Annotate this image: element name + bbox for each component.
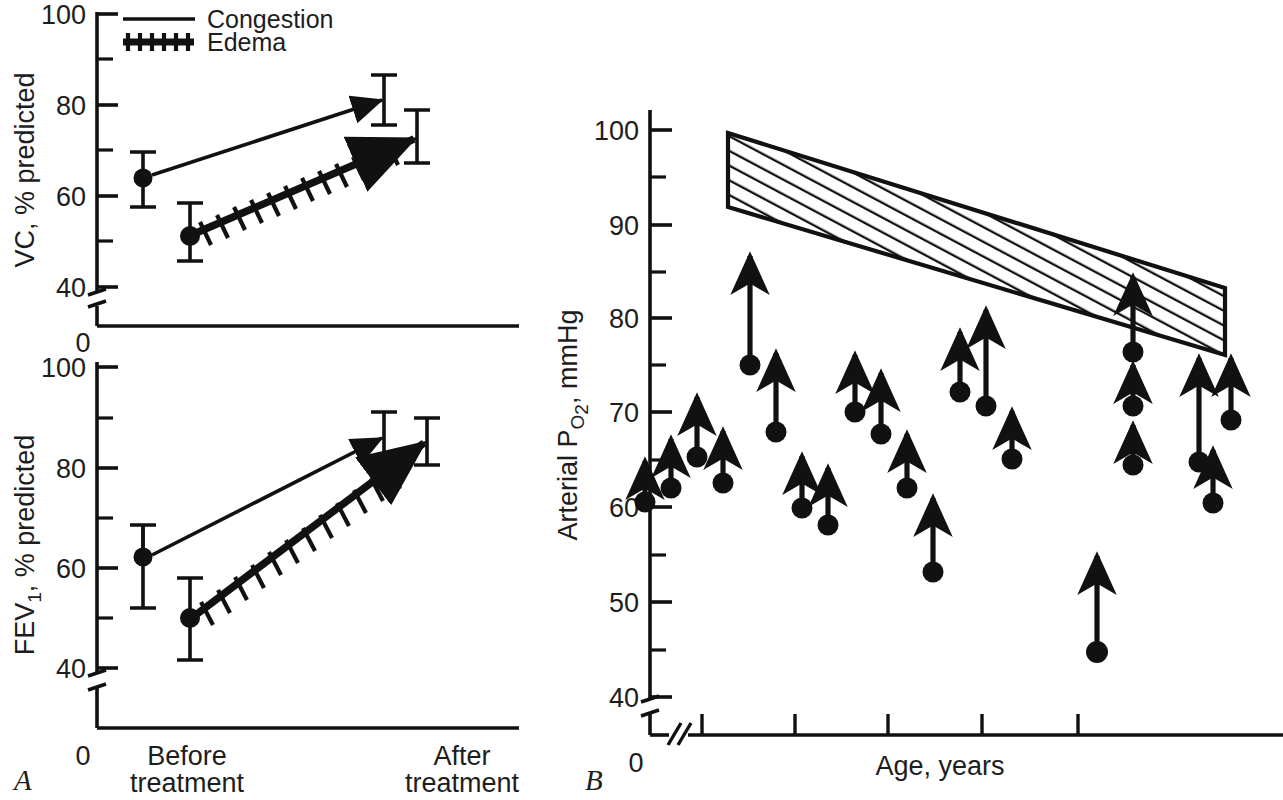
po2-ytick-80: 80 [609, 304, 639, 334]
xcat-before-line1: Before [147, 741, 227, 771]
figure-root: 100 80 60 40 0 VC, % predicted Congestio… [0, 0, 1283, 800]
po2-ytick-40: 40 [609, 683, 639, 713]
po2-ytick-100: 100 [594, 116, 639, 146]
vc-ytick-80: 80 [56, 91, 86, 121]
xcat-after-line1: After [433, 741, 490, 771]
po2-xaxis-label: Age, years [875, 751, 1004, 781]
xcat-after-line2: treatment [405, 768, 520, 798]
panel-b-label: B [585, 764, 603, 796]
panel-a-zero-label: 0 [75, 741, 90, 771]
vc-ytick-100: 100 [41, 0, 86, 30]
fev-ytick-60: 60 [56, 554, 86, 584]
panel-a-label: A [12, 764, 32, 796]
po2-ytick-50: 50 [609, 588, 639, 618]
background [0, 0, 1283, 800]
fev-ytick-40: 40 [56, 654, 86, 684]
vc-ytick-40: 40 [56, 273, 86, 303]
po2-zero-label: 0 [628, 748, 643, 778]
legend-label-edema: Edema [207, 28, 286, 56]
vc-ytick-60: 60 [56, 182, 86, 212]
fev-axis-label: FEV1, % predicted [10, 435, 45, 656]
vc-axis-label: VC, % predicted [10, 72, 40, 267]
fev-ytick-100: 100 [41, 353, 86, 383]
po2-ytick-90: 90 [609, 211, 639, 241]
po2-ytick-60: 60 [609, 493, 639, 523]
po2-ytick-70: 70 [609, 398, 639, 428]
xcat-before-line2: treatment [130, 768, 245, 798]
fev-ytick-80: 80 [56, 454, 86, 484]
figure-svg: 100 80 60 40 0 VC, % predicted Congestio… [0, 0, 1283, 800]
fev-point-congestion-before [134, 548, 153, 567]
vc-point-congestion-before [134, 169, 153, 188]
